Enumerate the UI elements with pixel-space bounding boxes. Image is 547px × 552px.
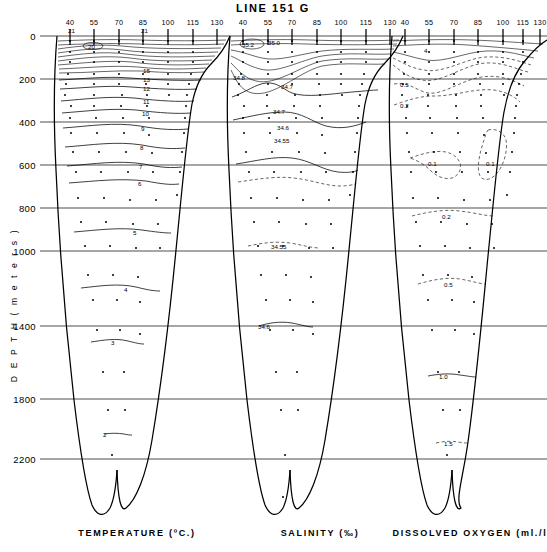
temp-label-11: 11 [143, 98, 150, 105]
depth-tick-label-400: 400 [19, 117, 36, 128]
oxygen-contour-0.2-upper [394, 90, 520, 105]
sal-station-label-130: 130 [384, 18, 397, 27]
temp-label-3: 3 [111, 339, 115, 346]
salinity-contour-34.8 [232, 83, 378, 97]
ox-label-1.0: 1.0 [439, 373, 448, 380]
panel-dissolved-oxygen: 40 55 70 85 100 115 130 [389, 18, 547, 538]
temp-station-label-70: 70 [115, 18, 124, 27]
temp-station-label-55: 55 [90, 18, 99, 27]
oxygen-contour-labels: 4 0.5 0.2 0.1 0.1 0.2 0.5 1.0 1.5 [400, 47, 495, 447]
temperature-contour-3 [91, 339, 144, 344]
temperature-left-boundary [54, 36, 117, 514]
oxygen-panel-title: DISSOLVED OXYGEN (ml./l [393, 528, 547, 538]
salinity-contour-34.55-upper [238, 177, 355, 186]
temperature-contour-4 [81, 285, 160, 291]
sal-station-label-70: 70 [288, 18, 297, 27]
temp-label-10: 10 [142, 110, 149, 117]
ox-station-label-115: 115 [517, 18, 529, 27]
sal-label-34.6-deep: 34.6 [258, 323, 271, 330]
ox-label-0.1-right: 0.1 [486, 160, 495, 167]
temperature-contour-labels: 21 21 20 15 13 12 11 10 9 8 7 6 5 4 3 2 [68, 27, 150, 438]
temp-label-8: 8 [140, 144, 144, 151]
sal-label-34.8: 34.8 [233, 74, 246, 81]
temp-station-label-100: 100 [162, 18, 175, 27]
sal-label-35.2: 35.2 [242, 41, 255, 48]
depth-axis-title: D E P T H ( m e t e r s ) [9, 228, 19, 382]
sal-label-34.6-upper: 34.6 [277, 124, 290, 131]
ox-label-0.5-upper: 0.5 [400, 81, 409, 88]
sal-label-35.0: 35.0 [268, 39, 281, 46]
temperature-contour-2 [104, 433, 132, 435]
temp-label-9: 9 [141, 125, 145, 132]
oxygen-left-boundary [389, 36, 452, 514]
oxygen-station-axis: 40 55 70 85 100 115 130 [401, 18, 547, 45]
sal-label-34.55-deep: 34.55 [271, 243, 287, 250]
temperature-contour-11 [61, 97, 194, 101]
temp-label-12: 12 [143, 85, 150, 92]
temperature-contour-8 [65, 143, 185, 148]
salinity-right-boundary [290, 36, 403, 509]
temp-station-label-40: 40 [66, 18, 75, 27]
ox-label-4: 4 [424, 47, 428, 54]
temperature-panel-title: TEMPERATURE (ºC.) [78, 528, 196, 538]
ox-station-label-70: 70 [450, 18, 459, 27]
ox-label-1.5: 1.5 [444, 440, 453, 447]
oxygen-right-boundary [452, 40, 547, 509]
sal-station-label-85: 85 [313, 18, 322, 27]
sal-label-34.7-lower: 34.7 [273, 108, 286, 115]
ox-station-label-85: 85 [474, 18, 483, 27]
temperature-surface-isotherms [58, 40, 226, 73]
temp-label-20: 20 [88, 43, 95, 50]
temp-label-21-b: 21 [141, 27, 148, 34]
salinity-contour-labels: 35.2 35.0 34.8 34.7 34.7 34.6 34.55 34.5… [233, 39, 294, 330]
oxygen-contour-1.0 [428, 374, 476, 377]
sal-station-label-55: 55 [264, 18, 273, 27]
depth-tick-label-2200: 2200 [13, 454, 36, 465]
chart-title: LINE 151 G [236, 2, 310, 14]
panel-temperature: 40 55 70 85 100 115 130 [54, 18, 230, 538]
sal-station-label-40: 40 [239, 18, 248, 27]
temp-station-label-85: 85 [139, 18, 148, 27]
temp-label-6: 6 [138, 180, 142, 187]
panel-salinity: 40 55 70 85 100 115 130 [227, 18, 403, 538]
temp-label-15: 15 [143, 67, 150, 74]
temp-label-21-a: 21 [68, 27, 75, 34]
depth-tick-label-600: 600 [19, 160, 36, 171]
depth-gridlines [40, 36, 547, 459]
ox-station-label-100: 100 [497, 18, 510, 27]
sal-station-label-100: 100 [335, 18, 348, 27]
temp-label-4: 4 [124, 286, 128, 293]
temperature-contour-10 [62, 109, 191, 113]
temp-station-label-130: 130 [211, 18, 224, 27]
ox-label-0.5-lower: 0.5 [444, 281, 453, 288]
ox-label-0.2-lower: 0.2 [442, 213, 451, 220]
sal-station-label-115: 115 [360, 18, 372, 27]
oxygen-contour-0.1-right [478, 129, 506, 179]
temperature-contour-6 [69, 180, 179, 185]
temperature-contour-9 [63, 124, 188, 129]
depth-tick-label-200: 200 [19, 74, 36, 85]
ox-station-label-40: 40 [401, 18, 410, 27]
section-chart-svg: LINE 151 G 0 200 400 600 800 1000 1400 1… [0, 0, 547, 552]
temp-label-5: 5 [133, 229, 137, 236]
sal-label-34.55-top: 34.55 [274, 137, 290, 144]
temperature-sample-dots [64, 40, 194, 456]
ox-station-label-130: 130 [534, 18, 547, 27]
temp-label-13: 13 [143, 76, 150, 83]
temp-label-2: 2 [103, 431, 107, 438]
salinity-surface-contours [231, 40, 399, 94]
salinity-panel-title: SALINITY (‰) [281, 528, 360, 538]
ox-station-label-55: 55 [425, 18, 434, 27]
temp-label-7: 7 [139, 163, 143, 170]
salinity-contour-34.7-upper [233, 112, 366, 128]
temperature-right-boundary [117, 36, 230, 509]
depth-tick-label-800: 800 [19, 203, 36, 214]
temperature-contour-5 [74, 229, 171, 233]
temp-station-label-115: 115 [187, 18, 199, 27]
depth-tick-label-1800: 1800 [13, 394, 36, 405]
depth-tick-label-0: 0 [30, 31, 36, 42]
oxygen-contour-0.2-lower [412, 210, 494, 216]
oceanographic-section-figure: LINE 151 G 0 200 400 600 800 1000 1400 1… [0, 0, 547, 552]
ox-label-0.1-left: 0.1 [428, 160, 437, 167]
temperature-contour-12 [60, 86, 197, 89]
